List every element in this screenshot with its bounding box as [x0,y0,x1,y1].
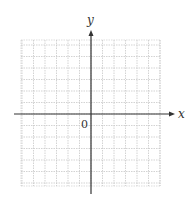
axes [14,30,175,194]
x-axis-arrow-icon [169,112,175,117]
origin-label: 0 [81,118,88,131]
coordinate-plane: x y 0 [0,0,193,201]
y-axis-label: y [86,13,94,27]
y-axis-arrow-icon [89,30,94,36]
x-axis-label: x [178,107,185,121]
